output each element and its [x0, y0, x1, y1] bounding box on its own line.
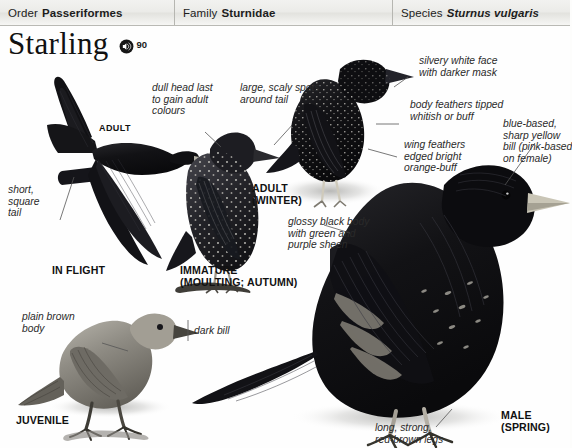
leader-line-wing-feathers [368, 149, 397, 157]
annotation-body-feathers: body feathers tipped whitish or buff [410, 99, 503, 122]
caption-juvenile: JUVENILE [16, 414, 69, 426]
annotation-short-square-tail: short, square tail [8, 184, 39, 219]
annotation-bill: blue-based, sharp yellow bill (pink-base… [503, 118, 572, 164]
species-label: Species [401, 7, 443, 19]
caption-adult: ADULT [99, 122, 131, 134]
annotation-wing-feathers: wing feathers edged bright orange-buff [404, 139, 465, 174]
leader-line-scaly-spots [274, 123, 294, 145]
annotation-dark-bill: dark bill [194, 325, 229, 337]
taxonomy-order-cell: Order Passeriformes [0, 0, 175, 25]
annotation-dull-head: dull head last to gain adult colours [152, 82, 213, 117]
taxonomy-header: Order Passeriformes Family Sturnidae Spe… [0, 0, 570, 26]
annotation-glossy-body: glossy black body with green and purple … [288, 216, 369, 251]
family-value: Sturnidae [221, 7, 275, 19]
annotation-legs: long, strong, red-brown legs [375, 422, 443, 445]
annotation-scaly-spots: large, scaly spots around tail [240, 82, 320, 105]
taxonomy-species-cell: Species Sturnus vulgaris [393, 0, 570, 25]
annotation-silvery-face: silvery white face with darker mask [419, 55, 497, 78]
order-label: Order [8, 7, 38, 19]
order-value: Passeriformes [42, 7, 123, 19]
species-value: Sturnus vulgaris [447, 7, 539, 19]
caption-in-flight: IN FLIGHT [52, 264, 105, 276]
caption-male-spring: MALE (SPRING) [501, 409, 550, 434]
taxonomy-family-cell: Family Sturnidae [175, 0, 393, 25]
caption-adult-winter: ADULT (WINTER) [252, 182, 302, 207]
annotation-plain-brown: plain brown body [22, 311, 75, 334]
family-label: Family [183, 7, 217, 19]
caption-immature: IMMATURE (MOULTING; AUTUMN) [180, 264, 297, 289]
